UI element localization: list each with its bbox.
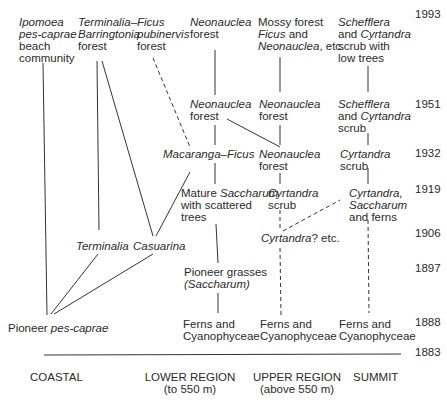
node-ferns-summit: Ferns and Cyanophyceae [339, 318, 416, 342]
node-neonauclea-upper-1932: Neonauclea forest [259, 148, 320, 172]
zone-coastal: COASTAL [30, 371, 83, 383]
node-neonauclea-lower-1951: Neonauclea forest [190, 98, 251, 122]
node-casuarina: Casuarina [133, 240, 185, 252]
node-neonauclea-1993: Neonauclea forest [190, 16, 251, 40]
zone-upper-region: UPPER REGION (above 550 m) [252, 371, 342, 395]
node-mature-saccharum: Mature Saccharum with scattered trees [181, 187, 278, 223]
node-schefflera-1951: Schefflera and Cyrtandra scrub [338, 98, 411, 134]
node-cyrtandra-summit-1932: Cyrtandra scrub [340, 148, 391, 172]
node-schefflera-1993: Schefflera and Cyrtandra scrub with low … [338, 16, 411, 64]
year-1993: 1993 [415, 8, 441, 20]
year-1951: 1951 [415, 98, 441, 110]
node-neonauclea-upper-1951: Neonauclea forest [259, 98, 320, 122]
year-1883: 1883 [415, 346, 441, 358]
node-mossy-forest: Mossy forest Ficus and Neonauclea, etc. [258, 16, 344, 52]
node-ferns-lower: Ferns and Cyanophyceae [183, 318, 260, 342]
node-cyrtandra-saccharum-summit: Cyrtandra, Saccharum and ferns [349, 187, 407, 223]
baseline-1883 [44, 354, 401, 355]
node-cyrtandra-1906: Cyrtandra? etc. [261, 232, 340, 244]
node-terminalia: Terminalia [76, 240, 129, 252]
zone-lower-region: LOWER REGION (to 550 m) [140, 371, 240, 395]
year-1897: 1897 [415, 262, 441, 274]
node-terminalia-barringtonia: Terminalia– Barringtonia forest [78, 16, 140, 52]
year-1906: 1906 [415, 227, 441, 239]
year-1932: 1932 [415, 147, 441, 159]
node-ipomoea: Ipomoea pes-caprae beach community [19, 16, 77, 64]
node-ferns-upper: Ferns and Cyanophyceae [260, 318, 337, 342]
year-1888: 1888 [415, 316, 441, 328]
succession-diagram: 1993 1951 1932 1919 1906 1897 1888 1883 … [0, 0, 447, 403]
node-cyrtandra-upper-1919: Cyrtandra scrub [268, 187, 319, 211]
node-macaranga-ficus: Macaranga–Ficus [163, 148, 254, 160]
year-1919: 1919 [415, 183, 441, 195]
node-pioneer-grasses: Pioneer grasses (Saccharum) [184, 266, 267, 290]
node-pioneer-pes-caprae: Pioneer pes-caprae [8, 322, 108, 334]
zone-summit: SUMMIT [353, 371, 398, 383]
node-ficus-pubinervis: Ficus pubinervis forest [137, 16, 189, 52]
